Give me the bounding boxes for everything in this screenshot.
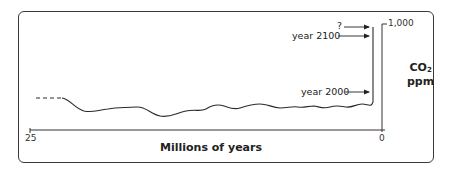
x-tick-label-0: 0 [379, 134, 385, 143]
y-tick-label-1000: 1,000 [388, 19, 414, 28]
y-axis-title-unit: ppm [407, 75, 434, 88]
annotation-year-2100: year 2100 [292, 31, 340, 41]
annotation-year-2000: year 2000 [301, 87, 349, 97]
y-axis-title-subscript: 2 [427, 66, 432, 74]
x-tick-label-25: 25 [25, 134, 36, 143]
y-axis-title-co: CO [409, 61, 426, 74]
x-axis-title: Millions of years [160, 141, 262, 154]
y-axis-title: CO2 ppm [407, 62, 434, 88]
